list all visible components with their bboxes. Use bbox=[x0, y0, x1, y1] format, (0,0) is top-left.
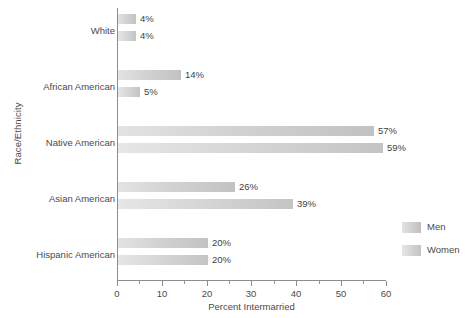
x-minor-tick-35 bbox=[274, 281, 275, 284]
y-axis-title: Race/Ethnicity bbox=[12, 79, 23, 189]
bar-value-men-hispanic-american: 20% bbox=[212, 238, 231, 248]
category-label-hispanic-american: Hispanic American bbox=[0, 249, 115, 260]
x-tick-0 bbox=[117, 281, 118, 286]
bar-value-women-hispanic-american: 20% bbox=[212, 255, 231, 265]
x-minor-tick-5 bbox=[139, 281, 140, 284]
legend-label-men: Men bbox=[427, 221, 445, 232]
x-tick-label-20: 20 bbox=[187, 288, 227, 299]
bar-value-women-native-american: 59% bbox=[387, 143, 406, 153]
category-label-white: White bbox=[0, 25, 115, 36]
bar-women-hispanic-american bbox=[118, 255, 208, 265]
bar-women-african-american bbox=[118, 87, 140, 97]
x-minor-tick-25 bbox=[229, 281, 230, 284]
x-tick-60 bbox=[386, 281, 387, 286]
bar-women-white bbox=[118, 31, 136, 41]
bar-value-men-asian-american: 26% bbox=[239, 182, 258, 192]
x-minor-tick-55 bbox=[363, 281, 364, 284]
bar-chart: Race/Ethnicity White African American Na… bbox=[0, 0, 469, 318]
x-tick-label-30: 30 bbox=[231, 288, 271, 299]
bar-men-hispanic-american bbox=[118, 238, 208, 248]
x-minor-tick-45 bbox=[319, 281, 320, 284]
x-tick-40 bbox=[296, 281, 297, 286]
x-tick-label-60: 60 bbox=[366, 288, 406, 299]
x-tick-10 bbox=[162, 281, 163, 286]
legend-swatch-men bbox=[402, 222, 421, 233]
x-tick-label-10: 10 bbox=[142, 288, 182, 299]
x-tick-30 bbox=[251, 281, 252, 286]
x-tick-50 bbox=[341, 281, 342, 286]
category-label-native-american: Native American bbox=[0, 137, 115, 148]
legend-label-women: Women bbox=[427, 244, 460, 255]
bar-men-white bbox=[118, 14, 136, 24]
category-label-african-american: African American bbox=[0, 81, 115, 92]
bar-women-asian-american bbox=[118, 199, 293, 209]
bar-value-men-african-american: 14% bbox=[185, 70, 204, 80]
bar-value-men-white: 4% bbox=[140, 14, 154, 24]
x-tick-20 bbox=[207, 281, 208, 286]
bar-men-african-american bbox=[118, 70, 181, 80]
bar-men-asian-american bbox=[118, 182, 235, 192]
bar-men-native-american bbox=[118, 126, 374, 136]
x-axis-title: Percent Intermarried bbox=[117, 301, 386, 312]
x-tick-label-0: 0 bbox=[97, 288, 137, 299]
bar-value-women-white: 4% bbox=[140, 31, 154, 41]
x-tick-label-50: 50 bbox=[321, 288, 361, 299]
category-label-asian-american: Asian American bbox=[0, 193, 115, 204]
x-minor-tick-15 bbox=[184, 281, 185, 284]
bar-value-women-asian-american: 39% bbox=[297, 199, 316, 209]
bar-value-women-african-american: 5% bbox=[144, 87, 158, 97]
x-tick-label-40: 40 bbox=[276, 288, 316, 299]
bar-women-native-american bbox=[118, 143, 383, 153]
legend-swatch-women bbox=[402, 245, 421, 256]
bar-value-men-native-american: 57% bbox=[378, 126, 397, 136]
